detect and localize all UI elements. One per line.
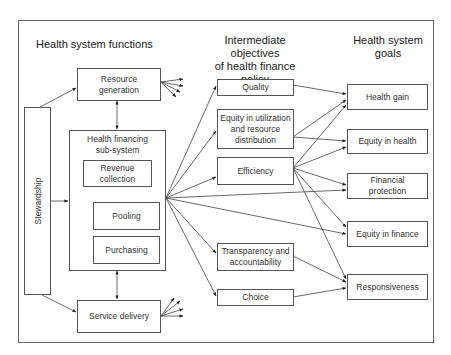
responsiveness-box: Responsiveness xyxy=(347,274,428,300)
health-financing-line2: sub-system xyxy=(87,145,148,156)
health-gain-box: Health gain xyxy=(347,84,428,110)
equity-in-finance-box: Equity in finance xyxy=(347,221,428,247)
resource-generation-line2: generation xyxy=(99,85,139,96)
heading-functions: Health system functions xyxy=(36,38,153,51)
equity-in-health-label: Equity in health xyxy=(358,136,416,147)
pooling-box: Pooling xyxy=(93,202,160,230)
financial-protection-line1: Financial xyxy=(370,175,404,186)
equity-in-finance-label: Equity in finance xyxy=(356,229,418,240)
stewardship-box: Stewardship xyxy=(24,107,51,295)
revenue-collection-line2: collection xyxy=(100,174,135,185)
efficiency-box: Efficiency xyxy=(217,157,294,185)
stewardship-label: Stewardship xyxy=(32,178,43,225)
equity-utilization-box: Equity in utilization and resource distr… xyxy=(217,109,294,149)
responsiveness-label: Responsiveness xyxy=(356,282,418,293)
equity-utilization-line1: Equity in utilization xyxy=(220,113,290,124)
revenue-collection-box: Revenue collection xyxy=(83,160,152,187)
transparency-line2: accountability xyxy=(230,257,282,268)
equity-utilization-line2: and resource xyxy=(231,124,281,135)
transparency-line1: Transparency and xyxy=(221,246,289,257)
heading-goals-line1: Health system xyxy=(346,34,430,47)
heading-goals-line2: goals xyxy=(346,47,430,60)
service-delivery-box: Service delivery xyxy=(77,300,161,333)
purchasing-box: Purchasing xyxy=(93,236,160,264)
financial-protection-line2: protection xyxy=(369,186,406,197)
equity-in-health-box: Equity in health xyxy=(347,129,428,154)
choice-box: Choice xyxy=(217,289,294,306)
transparency-box: Transparency and accountability xyxy=(217,243,294,271)
heading-goals: Health system goals xyxy=(346,34,430,60)
revenue-collection-line1: Revenue xyxy=(100,163,134,174)
health-financing-line1: Health financing xyxy=(87,134,148,145)
financial-protection-box: Financial protection xyxy=(347,173,428,199)
resource-generation-line1: Resource xyxy=(101,74,137,85)
pooling-label: Pooling xyxy=(112,211,140,222)
quality-label: Quality xyxy=(242,82,268,93)
service-delivery-label: Service delivery xyxy=(89,311,149,322)
resource-generation-box: Resource generation xyxy=(77,68,161,101)
quality-box: Quality xyxy=(217,79,294,96)
equity-utilization-line3: distribution xyxy=(235,135,276,146)
efficiency-label: Efficiency xyxy=(237,166,273,177)
purchasing-label: Purchasing xyxy=(105,245,148,256)
health-financing-title: Health financing sub-system xyxy=(87,131,148,156)
health-gain-label: Health gain xyxy=(366,92,409,103)
choice-label: Choice xyxy=(242,292,268,303)
health-finance-diagram: Health system functions Intermediate obj… xyxy=(0,0,451,355)
heading-objectives-line1: Intermediate objectives xyxy=(200,34,310,60)
